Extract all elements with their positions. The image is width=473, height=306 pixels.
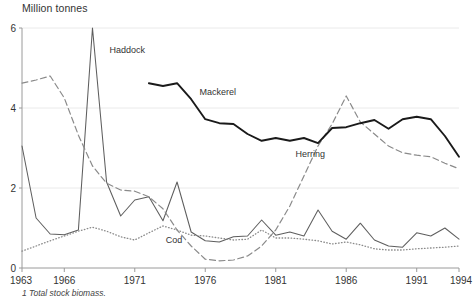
x-tick-label: 1971 (124, 275, 147, 286)
series-label-herring: Herring (295, 149, 325, 159)
series-label-cod: Cod (166, 235, 183, 245)
x-tick-label: 1991 (406, 275, 429, 286)
x-tick-label: 1994 (450, 275, 473, 286)
y-tick-label: 0 (10, 263, 16, 274)
fish-stock-line-chart: Million tonnes 0246196319661971197619811… (0, 0, 473, 306)
series-line-mackerel (149, 83, 459, 157)
x-tick-label: 1976 (194, 275, 217, 286)
x-tick-label: 1966 (53, 275, 76, 286)
chart-plot-area: 024619631966197119761981198619911994Hadd… (0, 0, 473, 306)
y-tick-label: 4 (10, 103, 16, 114)
series-line-haddock (22, 28, 459, 247)
y-tick-label: 2 (10, 183, 16, 194)
x-tick-label: 1981 (265, 275, 288, 286)
chart-footnote: 1 Total stock biomass. (22, 288, 106, 298)
y-tick-label: 6 (10, 23, 16, 34)
x-tick-label: 1963 (10, 275, 33, 286)
series-label-mackerel: Mackerel (200, 87, 237, 97)
series-line-cod (22, 226, 459, 251)
x-tick-label: 1986 (335, 275, 358, 286)
series-label-haddock: Haddock (109, 45, 145, 55)
